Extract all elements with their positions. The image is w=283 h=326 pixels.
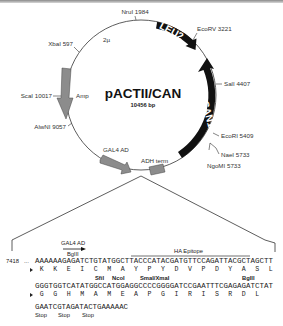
amino-acid: R [228,291,232,298]
amino-acid: D [242,291,246,298]
seq-position: 7418 [6,258,19,264]
svg-text:EcoRV 3221: EcoRV 3221 [197,25,232,32]
amino-acid: I [201,291,205,298]
frame-arrow-2 [30,293,33,297]
site-alwni[interactable]: AlwNI 9057 [34,123,72,130]
bracket-right [265,240,275,252]
amino-acids-line-1: KKEICMAYPYDVPDYASL [40,266,273,273]
amp-label: Amp [76,92,89,99]
svg-text:NruI 1984: NruI 1984 [121,8,149,15]
site-sali[interactable]: SalI 4407 [216,80,251,87]
sequence-line-2: GGGTGGTCATATGGCCATGGAGGCCCCGGGGATCCGAATT… [35,283,273,290]
site-ecorv[interactable]: EcoRV 3221 [193,25,232,40]
site-smai-xmai: SmaI/XmaI [140,275,170,281]
feature-amp[interactable]: Amp [57,68,89,119]
site-naei[interactable]: NaeI 5733 [209,143,250,158]
amino-acid: K [53,266,57,273]
svg-text:NaeI 5733: NaeI 5733 [221,151,250,158]
adh-term-label: ADH term [141,157,168,164]
amino-acid: M [80,291,84,298]
leu2-label: LEU2 [158,20,186,42]
plasmid-map: LEU2 CAN1 Amp GAL4 AD ADH term 2µ pACTII… [0,0,283,326]
expansion-line-left [12,176,141,240]
feature-leu2[interactable]: LEU2 [156,20,197,50]
amino-acid: S [255,266,259,273]
amino-acid: D [175,266,179,273]
svg-text:ScaI 10017: ScaI 10017 [21,92,53,99]
amino-acid: Y [161,266,165,273]
expansion-line-right [141,176,265,240]
amino-acid: I [80,266,84,273]
frame-arrow-1 [30,268,33,272]
amino-acid: K [40,266,44,273]
sequence-line-3: GAATCGTAGATACTGAAAAAC [35,304,128,311]
stop-3: Stop [82,312,94,318]
svg-text:EcoRI 5409: EcoRI 5409 [221,132,254,139]
gal4-ad-label: GAL4 AD [103,146,129,153]
site-ncoi: NcoI [112,275,125,281]
plasmid-name: pACTII/CAN [105,86,182,101]
svg-text:NgoMI 5733: NgoMI 5733 [207,162,241,169]
origin-2mu-label: 2µ [103,36,110,43]
amino-acid: H [67,291,71,298]
gal4-ad-arrow [100,155,131,174]
site-ngomi[interactable]: NgoMI 5733 [207,162,241,169]
amino-acid: M [107,291,111,298]
amino-acid: P [148,266,152,273]
svg-text:XbaI 597: XbaI 597 [48,40,73,47]
amino-acid: D [215,266,219,273]
sequence-line-1: AAAAAAGAGATCTGTATGGCTTACCCATACGATGTTCCAG… [35,258,273,265]
amino-acid: G [40,291,44,298]
amino-acid: R [188,291,192,298]
ha-epitope-label: HA Epitope [174,248,203,254]
svg-text:AlwNI 9057: AlwNI 9057 [34,123,66,130]
feature-can1[interactable]: CAN1 [178,58,217,158]
amino-acid: E [121,291,125,298]
feature-gal4-ad[interactable]: GAL4 AD [100,146,131,174]
amino-acid: A [121,266,125,273]
plasmid-size: 10456 bp [131,102,156,108]
amp-arrow [57,68,73,119]
amino-acid: L [269,266,273,273]
insert-bglii-top: BglII [67,251,79,257]
site-nrui[interactable]: NruI 1984 [121,8,149,20]
amino-acid: A [242,266,246,273]
amino-acid: Y [228,266,232,273]
amino-acid: E [67,266,71,273]
amino-acid: A [134,291,138,298]
amino-acid: S [215,291,219,298]
insert-gal4-label: GAL4 AD [61,240,85,246]
stop-1: Stop [35,312,47,318]
amino-acid: G [53,291,57,298]
amino-acid: I [175,291,179,298]
seq-ellipsis: ... [24,258,29,264]
amino-acid: G [161,291,165,298]
gal4-direction-arrowhead [81,247,86,251]
site-ecori[interactable]: EcoRI 5409 [213,132,254,139]
site-bglii-bottom: BglII [242,275,255,281]
amino-acids-line-2: GGHMAMEAPGIRISRDL [40,291,260,298]
stop-2: Stop [58,312,70,318]
amino-acid: P [201,266,205,273]
amino-acid: M [107,266,111,273]
svg-text:SalI 4407: SalI 4407 [224,80,251,87]
amino-acid: L [255,291,259,298]
adh-term-box [149,164,165,175]
site-sfii: SfiI [95,275,104,281]
site-scai[interactable]: ScaI 10017 [21,92,61,99]
amino-acid: P [148,291,152,298]
amino-acid: C [94,266,98,273]
amino-acid: A [94,291,98,298]
amino-acid: Y [134,266,138,273]
site-xbai[interactable]: XbaI 597 [48,40,79,52]
amino-acid: V [188,266,192,273]
